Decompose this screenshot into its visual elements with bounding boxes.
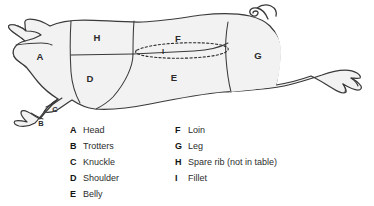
legend-item-d: D Shoulder <box>70 170 119 186</box>
legend-key-a: A <box>70 122 83 138</box>
legend-key-f: F <box>175 122 188 138</box>
cut-label-E: E <box>171 72 177 83</box>
legend-key-b: B <box>70 138 83 154</box>
legend-name-f: Loin <box>188 122 205 138</box>
cut-label-B: B <box>38 119 44 128</box>
cut-label-F: F <box>175 33 181 44</box>
pig-body-shapes <box>9 5 362 126</box>
legend-key-h: H <box>175 154 188 170</box>
legend-key-e: E <box>70 186 83 202</box>
legend-item-a: A Head <box>70 122 119 138</box>
legend-item-e: E Belly <box>70 186 119 202</box>
legend-item-h: H Spare rib (not in table) <box>175 154 277 170</box>
pig-cuts-figure: A B C D E F G H I A Head B Trotters C Kn… <box>0 0 374 206</box>
cut-label-G: G <box>254 50 261 61</box>
legend-key-g: G <box>175 138 188 154</box>
cuts-legend: A Head B Trotters C Knuckle D Shoulder E… <box>70 122 370 206</box>
legend-name-h: Spare rib (not in table) <box>188 154 277 170</box>
legend-item-f: F Loin <box>175 122 277 138</box>
legend-name-i: Fillet <box>188 170 207 186</box>
cut-label-I: I <box>162 47 164 56</box>
legend-name-d: Shoulder <box>83 170 119 186</box>
pig-body-outline <box>9 14 362 113</box>
legend-name-g: Leg <box>188 138 203 154</box>
cut-label-A: A <box>37 51 44 62</box>
legend-name-e: Belly <box>83 186 103 202</box>
legend-column-right: F Loin G Leg H Spare rib (not in table) … <box>175 122 277 186</box>
legend-key-c: C <box>70 154 83 170</box>
legend-key-d: D <box>70 170 83 186</box>
cut-label-C: C <box>52 105 58 114</box>
legend-item-c: C Knuckle <box>70 154 119 170</box>
legend-item-g: G Leg <box>175 138 277 154</box>
cut-label-D: D <box>87 73 94 84</box>
legend-key-i: I <box>175 170 188 186</box>
legend-column-left: A Head B Trotters C Knuckle D Shoulder E… <box>70 122 119 202</box>
legend-item-b: B Trotters <box>70 138 119 154</box>
legend-item-i: I Fillet <box>175 170 277 186</box>
legend-name-c: Knuckle <box>83 154 115 170</box>
legend-name-b: Trotters <box>83 138 114 154</box>
legend-name-a: Head <box>83 122 105 138</box>
cut-label-H: H <box>94 32 101 43</box>
